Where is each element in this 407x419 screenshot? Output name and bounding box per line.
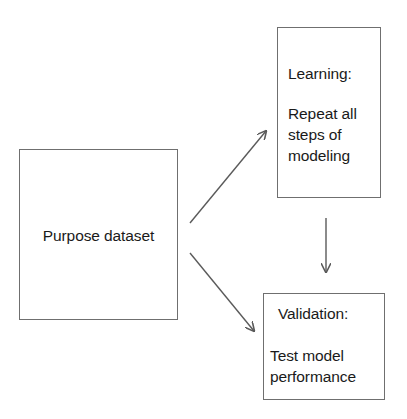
node-validation-title: Validation:	[278, 304, 348, 323]
node-purpose-dataset-label: Purpose dataset	[20, 225, 177, 244]
node-validation-body: Test model performance	[270, 345, 356, 387]
edge-purpose-to-learning	[190, 131, 266, 223]
edge-purpose-to-validation	[190, 253, 254, 331]
node-validation: Validation: Test model performance	[263, 293, 385, 400]
node-learning: Learning: Repeat all steps of modeling	[277, 27, 381, 198]
node-purpose-dataset: Purpose dataset	[19, 149, 178, 320]
node-learning-body: Repeat all steps of modeling	[288, 103, 357, 166]
node-learning-title: Learning:	[288, 64, 352, 83]
diagram-canvas: Purpose dataset Learning: Repeat all ste…	[0, 0, 407, 419]
